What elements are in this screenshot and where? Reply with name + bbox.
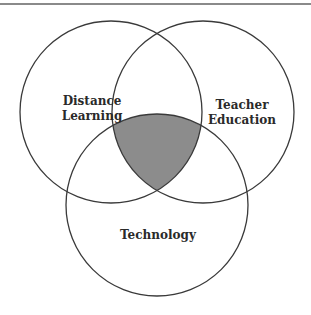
technology-label: Technology <box>112 228 204 243</box>
venn-diagram-canvas: Distance Learning Teacher Education Tech… <box>0 0 311 315</box>
triple-intersection-region <box>66 114 248 296</box>
label-line: Technology <box>112 228 204 243</box>
label-line: Learning <box>46 109 138 124</box>
label-line: Distance <box>46 94 138 109</box>
label-line: Teacher <box>196 98 288 113</box>
venn-diagram <box>0 0 311 315</box>
teacher-education-label: Teacher Education <box>196 98 288 128</box>
distance-learning-label: Distance Learning <box>46 94 138 124</box>
label-line: Education <box>196 113 288 128</box>
